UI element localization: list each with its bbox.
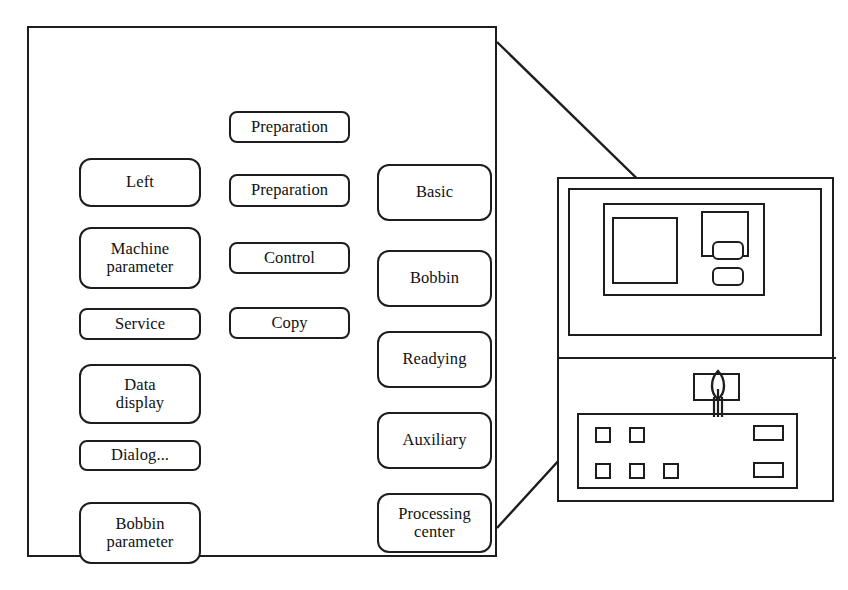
button-auxiliary[interactable]: Auxiliary [377,412,492,469]
button-readying[interactable]: Readying [377,331,492,388]
button-preparation-1-label: Preparation [247,118,332,136]
keypad-housing [559,359,836,501]
display-housing [559,179,836,359]
wide-key-2[interactable] [753,462,784,478]
button-dialog[interactable]: Dialog... [79,440,201,471]
button-auxiliary-label: Auxiliary [398,431,470,449]
button-data-display[interactable]: Data display [79,364,201,424]
button-control[interactable]: Control [229,242,350,274]
button-bobbin-parameter-label: Bobbin parameter [103,515,178,552]
button-service-label: Service [111,315,169,333]
key-1[interactable] [595,427,611,443]
button-service[interactable]: Service [79,308,201,340]
button-processing-center[interactable]: Processing center [377,493,492,553]
key-5[interactable] [663,463,679,479]
key-3[interactable] [595,463,611,479]
button-bobbin[interactable]: Bobbin [377,250,492,307]
button-bobbin-parameter[interactable]: Bobbin parameter [79,502,201,564]
button-data-display-label: Data display [112,376,168,413]
button-preparation-2-label: Preparation [247,181,332,199]
diagram-canvas: Left Machine parameter Service Data disp… [0,0,848,590]
wide-key-1[interactable] [753,425,784,441]
key-2[interactable] [629,427,645,443]
softkey-1[interactable] [712,241,744,260]
key-4[interactable] [629,463,645,479]
button-processing-center-label: Processing center [394,505,475,542]
button-left[interactable]: Left [79,158,201,207]
machine-terminal [557,177,834,502]
softkey-2[interactable] [712,267,744,286]
button-copy-label: Copy [267,314,311,332]
button-dialog-label: Dialog... [107,446,173,464]
button-control-label: Control [260,249,319,267]
spindle-icon [705,367,731,419]
button-readying-label: Readying [398,350,470,368]
button-left-label: Left [122,173,158,191]
button-bobbin-label: Bobbin [406,269,463,287]
button-preparation-1[interactable]: Preparation [229,111,350,143]
button-copy[interactable]: Copy [229,307,350,339]
button-basic[interactable]: Basic [377,164,492,221]
menu-panel: Left Machine parameter Service Data disp… [27,26,497,557]
button-preparation-2[interactable]: Preparation [229,174,350,207]
button-basic-label: Basic [412,183,457,201]
button-machine-parameter[interactable]: Machine parameter [79,227,201,289]
button-machine-parameter-label: Machine parameter [103,240,178,277]
display-viewport [612,217,678,284]
